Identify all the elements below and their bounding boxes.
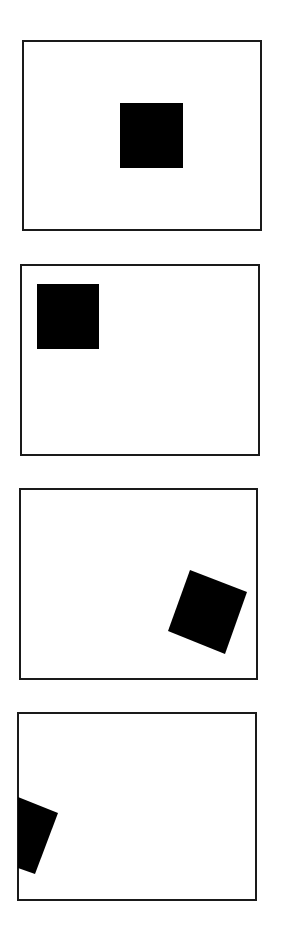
panel-3 — [20, 489, 257, 679]
panel-4 — [18, 713, 256, 900]
black-square — [120, 103, 183, 168]
clipped-rotated-black-square — [18, 797, 58, 874]
panel-2 — [21, 265, 259, 455]
black-square — [37, 284, 99, 349]
rotated-black-square — [168, 570, 247, 654]
panel-frame — [18, 713, 256, 900]
panel-1 — [23, 41, 261, 230]
figure-canvas — [0, 0, 292, 932]
